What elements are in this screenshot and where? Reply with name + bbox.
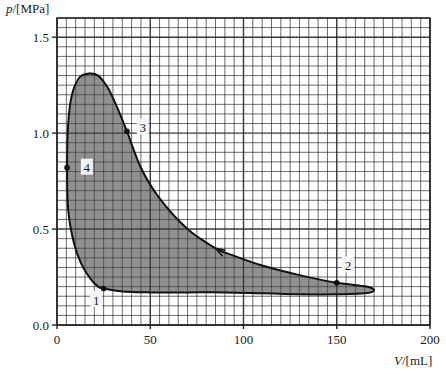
state-point-1-marker (101, 286, 107, 292)
y-tick-label: 0.5 (33, 222, 49, 237)
x-axis-variable: V (394, 353, 402, 368)
state-point-1-label: 1 (93, 293, 100, 308)
state-point-4-label: 4 (84, 160, 91, 175)
x-tick-label: 50 (144, 332, 157, 347)
x-tick-label: 200 (420, 332, 440, 347)
x-tick-label: 100 (234, 332, 254, 347)
x-tick-label: 150 (327, 332, 347, 347)
x-tick-label: 0 (54, 332, 61, 347)
y-tick-label: 0.0 (33, 318, 49, 333)
state-point-3-marker (124, 128, 130, 134)
y-axis-unit: /[MPa] (13, 1, 50, 16)
state-point-2-marker (334, 280, 340, 286)
state-point-2-label: 2 (345, 258, 352, 273)
y-axis-title: p/[MPa] (6, 1, 49, 17)
pv-diagram-chart: 0501001502000.00.51.01.5 1234 (0, 0, 446, 374)
y-tick-label: 1.5 (33, 30, 49, 45)
y-tick-label: 1.0 (33, 126, 49, 141)
x-axis-unit: /[mL] (402, 353, 432, 368)
x-axis-title: V/[mL] (394, 353, 432, 369)
state-point-4-marker (64, 165, 70, 171)
state-point-3-label: 3 (140, 120, 147, 135)
